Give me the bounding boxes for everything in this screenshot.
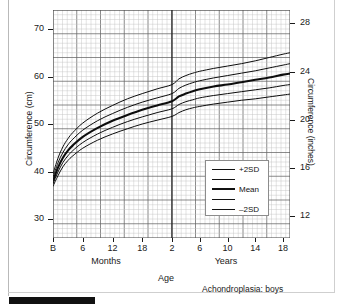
y-tick-mark-right-16 [290,168,295,169]
y-tick-label-right-28: 28 [300,18,320,27]
y-tick-label-right-12: 12 [300,211,320,220]
x-tick-label-years-6: 6 [188,244,212,253]
x-tick-label-years-18: 18 [271,244,295,253]
chart-legend: +2SDMean–2SD [205,160,269,216]
y-tick-mark-right-12 [290,216,295,217]
x-tick-label-years-10: 10 [216,244,240,253]
y-tick-mark-left-40 [48,172,53,173]
x-axis-years-label: Years [196,256,256,266]
y-tick-mark-left-50 [48,124,53,125]
figure-caption: Achondroplasia: boys [202,284,283,294]
x-tick-mark-years-2 [172,238,173,242]
x-tick-mark-years-6 [200,238,201,242]
x-tick-mark-months-B [53,238,54,242]
y-axis-left-title: Circumference (cm) [24,91,34,166]
y-tick-label-left-30: 30 [24,214,44,223]
x-tick-label-months-18: 18 [130,244,154,253]
x-tick-mark-months-6 [83,238,84,242]
x-tick-mark-years-18 [283,238,284,242]
growth-chart-screenshot: 30405060701216202428B6121826101418 Circu… [0,0,342,306]
y-tick-label-right-24: 24 [300,67,320,76]
x-tick-mark-months-12 [113,238,114,242]
legend-line-swatch [212,169,235,170]
x-tick-label-years-14: 14 [243,244,267,253]
x-axis-months-label: Months [76,256,136,266]
x-tick-mark-years-10 [228,238,229,242]
y-tick-mark-right-20 [290,120,295,121]
x-tick-mark-years-14 [255,238,256,242]
x-tick-label-months-6: 6 [71,244,95,253]
legend-item: –2SD [206,204,268,215]
legend-line-swatch [212,199,235,200]
y-tick-mark-left-30 [48,219,53,220]
x-tick-label-months-B: B [41,244,65,253]
y-tick-label-left-60: 60 [24,72,44,81]
y-tick-label-left-40: 40 [24,167,44,176]
legend-line-swatch [212,209,235,210]
legend-item-label: –2SD [239,204,259,215]
legend-line-swatch [212,179,235,180]
y-tick-label-left-70: 70 [24,24,44,33]
x-tick-mark-months-18 [142,238,143,242]
y-tick-mark-left-60 [48,77,53,78]
y-tick-mark-left-70 [48,29,53,30]
y-axis-right-title: Circumference (inches) [306,78,316,166]
chart-figure: 30405060701216202428B6121826101418 Circu… [0,0,342,306]
x-tick-label-years-2: 2 [160,244,184,253]
x-axis-title: Age [136,273,196,283]
x-tick-label-months-12: 12 [101,244,125,253]
y-tick-mark-right-24 [290,72,295,73]
y-tick-mark-right-28 [290,23,295,24]
legend-line-swatch [212,188,235,190]
